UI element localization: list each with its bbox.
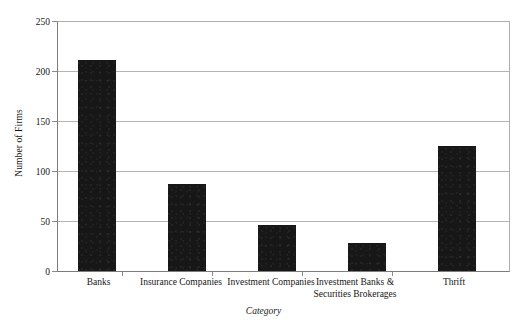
x-category-label-thrift-line1: Thrift [414, 277, 494, 289]
x-axis-title: Category [0, 306, 527, 316]
x-category-label-investment-banks: Investment Banks & Securities Brokerages [299, 277, 411, 300]
y-axis-title: Number of Firms [10, 85, 28, 200]
gridline-200 [58, 71, 509, 72]
y-tick-label-250: 250 [24, 17, 50, 27]
x-category-label-thrift: Thrift [414, 277, 494, 289]
plot-area [57, 21, 510, 272]
x-tick-mark-2 [212, 272, 213, 276]
y-axis-title-text: Number of Firms [14, 109, 24, 176]
bar-thrift[interactable] [438, 146, 476, 271]
bar-investment-banks[interactable] [348, 243, 386, 271]
bar-insurance-companies[interactable] [168, 184, 206, 271]
bar-banks[interactable] [78, 60, 116, 271]
x-tick-mark-4 [392, 272, 393, 276]
y-tick-label-150: 150 [24, 117, 50, 127]
x-tick-mark-1 [122, 272, 123, 276]
y-tick-label-100: 100 [24, 167, 50, 177]
y-tick-label-50: 50 [24, 217, 50, 227]
bar-investment-companies[interactable] [258, 225, 296, 271]
y-tick-label-200: 200 [24, 67, 50, 77]
gridline-150 [58, 121, 509, 122]
bar-chart: Number of Firms 250 200 150 100 50 0 Ban… [0, 0, 527, 327]
x-category-label-investment-banks-line2: Securities Brokerages [299, 289, 411, 301]
x-category-label-investment-banks-line1: Investment Banks & [299, 277, 411, 289]
x-tick-mark-3 [302, 272, 303, 276]
x-axis-title-text: Category [246, 306, 281, 316]
y-tick-label-0: 0 [24, 267, 50, 277]
